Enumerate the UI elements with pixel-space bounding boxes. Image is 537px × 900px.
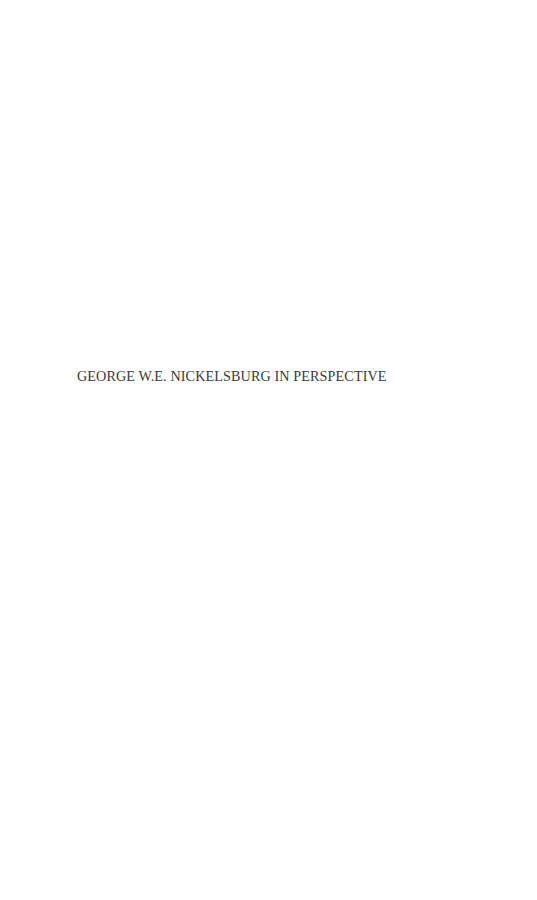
book-page: GEORGE W.E. NICKELSBURG IN PERSPECTIVE: [0, 0, 537, 900]
half-title: GEORGE W.E. NICKELSBURG IN PERSPECTIVE: [77, 367, 387, 385]
